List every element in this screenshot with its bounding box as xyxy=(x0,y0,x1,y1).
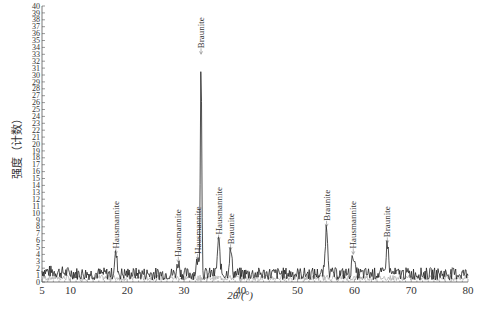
peak-label: Hausmannite xyxy=(214,187,224,235)
peak-label: Hausmannite xyxy=(111,201,121,249)
x-tick-label: 20 xyxy=(122,284,134,296)
x-axis-title: 2θ/(°) xyxy=(227,289,253,302)
peak-label: Braunite xyxy=(226,213,236,244)
peak-label: Hausmannite xyxy=(193,206,203,254)
peak-label: Braunite xyxy=(322,190,332,221)
y-axis-title: 强度（计数） xyxy=(10,113,23,179)
y-axis: 0123456789101112131415161718192021222324… xyxy=(32,2,45,287)
x-tick-label: 50 xyxy=(292,284,304,296)
y-tick-label: 40 xyxy=(32,2,40,11)
peak-labels: HausmanniteHausmanniteHausmanniteBraunit… xyxy=(111,17,393,262)
x-tick-label: 80 xyxy=(463,284,475,296)
peak-label: Braunite xyxy=(196,17,206,48)
diffraction-trace xyxy=(42,72,468,280)
x-tick-label: 70 xyxy=(406,284,418,296)
xrd-chart: 0123456789101112131415161718192021222324… xyxy=(0,0,483,314)
x-tick-label: 60 xyxy=(349,284,361,296)
peak-label: Braunite xyxy=(382,206,392,237)
x-tick-label: 30 xyxy=(179,284,191,296)
peak-label: Hausmannite xyxy=(348,201,358,249)
x-axis: 51020304050607080 xyxy=(39,279,474,296)
x-tick-label: 5 xyxy=(39,284,45,296)
peak-label: Hausmannite xyxy=(173,209,183,257)
x-tick-label: 10 xyxy=(65,284,77,296)
